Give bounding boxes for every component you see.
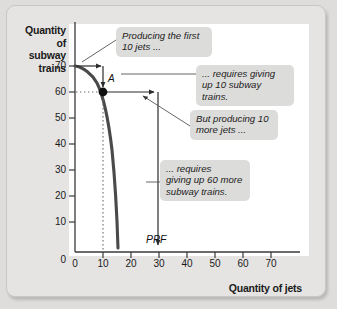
y-tick-label-10: 10	[44, 216, 66, 227]
y-axis-ticks	[69, 66, 75, 222]
x-tick-label-50: 50	[205, 258, 225, 269]
x-tick-label-30: 30	[149, 258, 169, 269]
x-tick-label-40: 40	[177, 258, 197, 269]
y-tick-label-70: 70	[44, 60, 66, 71]
x-tick-label-60: 60	[233, 258, 253, 269]
callout-give-up-10-trains: ... requires giving up 10 subway trains.	[196, 65, 294, 106]
y-tick-label-60: 60	[44, 86, 66, 97]
x-tick-label-0: 0	[65, 258, 85, 269]
point-A-label: A	[108, 73, 115, 84]
y-tick-label-30: 30	[44, 164, 66, 175]
leader-callout-10-more-jets	[143, 96, 190, 126]
y-tick-label-20: 20	[44, 190, 66, 201]
y-tick-label-50: 50	[44, 112, 66, 123]
point-A-marker	[99, 88, 108, 97]
y-tick-label-40: 40	[44, 138, 66, 149]
ppf-curve-label: PPF	[146, 233, 166, 245]
page-background: Quantity of subway trains Quantity of je…	[0, 0, 337, 309]
ppf-curve	[75, 66, 118, 248]
x-tick-label-70: 70	[261, 258, 281, 269]
callout-first-10-jets: Producing the first 10 jets ...	[116, 27, 212, 57]
callout-10-more-jets: But producing 10 more jets ...	[190, 110, 278, 140]
y-tick-label-0: 0	[44, 254, 66, 265]
x-axis-title: Quantity of jets	[182, 282, 302, 295]
callout-give-up-60-trains: ... requires giving up 60 more subway tr…	[160, 160, 250, 201]
leader-callout-first-10-jets	[82, 40, 116, 62]
x-tick-label-10: 10	[93, 258, 113, 269]
x-tick-label-20: 20	[121, 258, 141, 269]
